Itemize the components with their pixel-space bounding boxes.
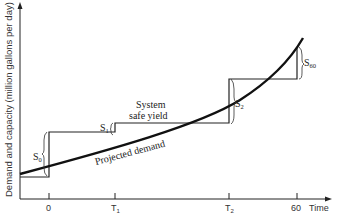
s1-label: S1 xyxy=(100,122,109,134)
x-ticks xyxy=(49,193,297,199)
tick-label-0: 0 xyxy=(46,203,51,213)
y-axis-label: Demand and capacity (million gallons per… xyxy=(3,2,14,197)
y-axis-arrow xyxy=(18,2,23,9)
s0-label: S0 xyxy=(33,151,42,163)
tick-label-60: 60 xyxy=(291,203,301,213)
s60-label: S60 xyxy=(304,57,316,69)
tick-label-t1: T1 xyxy=(111,203,121,214)
system-safe-yield-label-line1: System xyxy=(136,99,166,110)
x-axis-label: Time xyxy=(309,203,329,213)
system-safe-yield-label-line2: safe yield xyxy=(129,110,168,121)
x-axis-arrow xyxy=(325,197,332,202)
tick-label-t2: T2 xyxy=(225,203,235,214)
capacity-expansion-diagram: Demand and capacity (million gallons per… xyxy=(0,0,341,216)
